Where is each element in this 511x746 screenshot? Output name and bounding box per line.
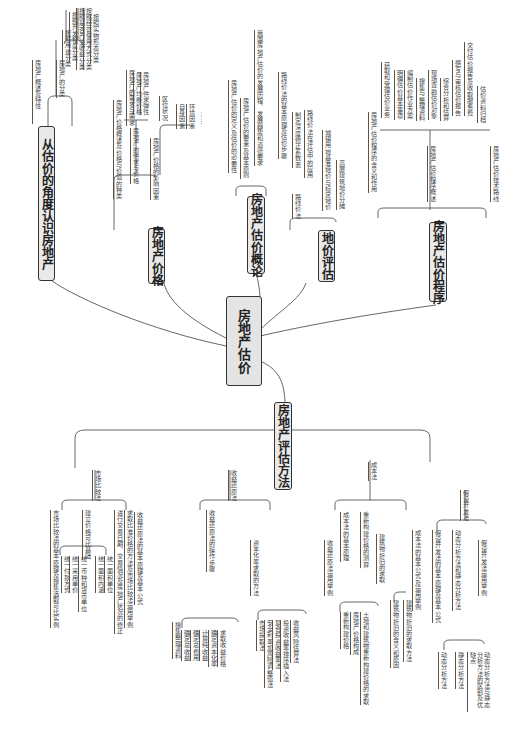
topic-procedure-overview[interactable]: 房地产估价程序概述 bbox=[427, 146, 436, 202]
topic-definition-necessity[interactable]: 房地产估价的定义及估价的必要性 bbox=[228, 80, 237, 173]
cost-rebuild-measure[interactable]: 重新构建价格的测算 bbox=[360, 512, 369, 568]
hyp-leaf-static[interactable]: 静态分析方法 bbox=[455, 652, 464, 689]
leaf-street-principle[interactable]: 路线价法的基本原理及估价步骤 bbox=[278, 72, 287, 159]
leaf-deliver-report[interactable]: 交付估价报告及收取服务费 bbox=[464, 42, 473, 116]
leaf-collect-data[interactable]: 搜集与整理资料 bbox=[416, 78, 425, 121]
method-cost[interactable]: 成本法 bbox=[368, 462, 377, 481]
branch-appraisal-intro[interactable]: 房地产估价概论 bbox=[247, 196, 265, 274]
inc-leaf-risk[interactable]: 收益风险估算法 bbox=[290, 620, 299, 663]
leaf-street-application[interactable]: 路线价法在评估中的应用 bbox=[304, 110, 313, 178]
method-income[interactable]: 收益还原法 bbox=[228, 470, 237, 501]
topic-technical-route[interactable]: 房地产估价技术路线 bbox=[490, 146, 499, 202]
leaf-archive[interactable]: 估价资料归档 bbox=[477, 86, 486, 123]
leaf-acquire-business[interactable]: 获取和受理估价业务 bbox=[381, 62, 390, 118]
mc-leaf-currency[interactable]: 统一币种和货币单位 bbox=[78, 556, 87, 612]
inc-cap-rate-methods[interactable]: 资本化率求取的方法 bbox=[250, 540, 259, 596]
inc-leaf-gross-expense[interactable]: 确定总费用 bbox=[190, 630, 199, 661]
inc-leaf-income-price[interactable]: 求取收益价格 bbox=[217, 630, 226, 667]
topic-elements-principles[interactable]: 房地产估价的要素及基本原则 bbox=[240, 98, 249, 179]
mind-map-canvas: 房地产估价 从估价的角度认识房地产 房地产概述及特性 房地产的分类 按照用途分类… bbox=[0, 0, 511, 746]
hyp-leaf-difference[interactable]: 动态分析方法与静态分析方法的区别及优缺点 bbox=[467, 652, 490, 712]
mc-comparable-basis[interactable]: 建立价格可比基础 bbox=[82, 510, 91, 560]
cost-leaf-depreciation-meaning[interactable]: 建筑物折旧的含义和原因 bbox=[390, 600, 399, 668]
cost-depreciation[interactable]: 建筑物折旧的求取 bbox=[376, 534, 385, 584]
leaf-location[interactable]: 区位状况 bbox=[159, 96, 168, 121]
mc-adjustments[interactable]: 进行交易日期、交易情况及房地产状况的修正 bbox=[114, 510, 123, 634]
hyp-leaf-dynamic[interactable]: 动态分析方法 bbox=[438, 652, 447, 689]
topic-benchmark-land-price[interactable]: 城镇用地基准地价与标定地价 bbox=[322, 130, 331, 211]
leaf-elasticity[interactable]: 房地产供求弹性 bbox=[140, 72, 149, 115]
inc-leaf-ranking[interactable]: 投资收益率排序插入法 bbox=[280, 620, 289, 682]
leaf-analysis-estimate[interactable]: 综合分析和估算 bbox=[440, 78, 449, 121]
inc-principle[interactable]: 收益还原法的基本原理及基本公式 bbox=[134, 512, 143, 605]
cost-formula-example[interactable]: 成本法的基本公式及运用举例 bbox=[412, 530, 421, 611]
hyp-dynamic-static[interactable]: 动态分析方法和静态分析方法 bbox=[452, 530, 461, 611]
branch-label: 房地产估价程序 bbox=[430, 220, 447, 304]
branch-label: 房地产评估方法 bbox=[275, 404, 292, 488]
inc-leaf-cap-rate[interactable]: 确定资本化率 bbox=[208, 630, 217, 667]
cost-leaf-price-composition[interactable]: 房地产价格构成 bbox=[350, 612, 359, 655]
topic-street-value-method[interactable]: 路线价法 bbox=[292, 194, 301, 219]
leaf-self-factors[interactable]: 自身因素 bbox=[176, 104, 185, 129]
inc-steps[interactable]: 收益还原法的操作步骤 bbox=[206, 510, 215, 572]
method-market-comparison[interactable]: 市场比较法 bbox=[92, 470, 101, 501]
mc-compare-price-example[interactable]: 求取比准价格的方法及市场比较法运用举例 bbox=[124, 510, 133, 628]
root-label: 房地产估价 bbox=[235, 309, 254, 374]
branch-appraisal-procedure[interactable]: 房地产估价程序 bbox=[429, 222, 447, 302]
branch-label: 房地产价格 bbox=[148, 226, 165, 286]
mc-leaf-area-unit[interactable]: 统一面积单位 bbox=[104, 556, 113, 593]
inc-example[interactable]: 收益还原法运用举例 bbox=[324, 540, 333, 596]
leaf-by-form[interactable]: 按照实物形态分类 bbox=[90, 14, 99, 64]
leaf-environment[interactable]: 环境因素 bbox=[186, 104, 195, 129]
mc-leaf-unit-price[interactable]: 统一采用单价 bbox=[69, 556, 78, 593]
topic-supply-demand[interactable]: 房地产的供求与价格 bbox=[130, 128, 139, 184]
cost-leaf-rebuild-price[interactable]: 重新构建价格 bbox=[340, 612, 349, 649]
leaf-ellipsis: …… bbox=[200, 112, 207, 125]
topic-price-overview[interactable]: 房地产价格概述及价格与价值的种类 bbox=[113, 100, 122, 199]
branch-recognize-real-estate[interactable]: 从估价的角度认识房地产 bbox=[38, 126, 55, 281]
topic-high-rise-allocation[interactable]: 高层建筑地价分摊 bbox=[336, 160, 345, 210]
hyp-example[interactable]: 假设开发法运用举例 bbox=[478, 540, 487, 596]
cost-leaf-land-building-rebuild[interactable]: 土地和建筑物重新构建价格的求取 bbox=[360, 612, 369, 705]
leaf-depth-table[interactable]: 制定深度修正系数表 bbox=[292, 112, 301, 168]
root-node[interactable]: 房地产估价 bbox=[226, 296, 262, 386]
leaf-work-plan[interactable]: 编制估价作业方案 bbox=[404, 70, 413, 120]
inc-leaf-gross-income[interactable]: 确定总收益 bbox=[181, 630, 190, 661]
leaf-clarify-matters[interactable]: 明确估价基本事项 bbox=[394, 70, 403, 120]
branch-label: 地价评估 bbox=[318, 232, 335, 280]
topic-history-trends[interactable]: 我国房地产估价的发展历程、发展趋势和道德要求 bbox=[254, 30, 263, 166]
leaf-site-inspection[interactable]: 现场查勘估价对象 bbox=[428, 70, 437, 120]
leaf-write-report[interactable]: 撰写与审核估价报告 bbox=[452, 60, 461, 116]
method-hypothetical-development[interactable]: 假设开发法 bbox=[460, 490, 469, 521]
topic-procedure-meaning[interactable]: 房地产估价程序的含义和作用 bbox=[368, 112, 377, 193]
mc-principle[interactable]: 市场比较法的基本原理及搜集选取可比实例 bbox=[50, 510, 59, 628]
branch-label: 从估价的角度认识房地产 bbox=[38, 138, 55, 270]
branch-land-valuation[interactable]: 地价评估 bbox=[318, 230, 335, 282]
mc-leaf-area-meaning[interactable]: 统一面积内涵 bbox=[95, 556, 104, 593]
hyp-principle[interactable]: 假设开发法的基本原理及基本公式 bbox=[432, 530, 441, 623]
cost-leaf-depreciation-method[interactable]: 建筑物折旧的求取方法 bbox=[403, 600, 412, 662]
inc-leaf-net-income[interactable]: 计算纯收益 bbox=[199, 630, 208, 661]
topic-overview-characteristics[interactable]: 房地产概述及特性 bbox=[32, 60, 41, 124]
branch-appraisal-methods[interactable]: 房地产评估方法 bbox=[274, 402, 292, 490]
inc-leaf-collect[interactable]: 搜集整理资料 bbox=[172, 622, 181, 659]
branch-real-estate-price[interactable]: 房地产价格 bbox=[148, 228, 165, 284]
cost-principle[interactable]: 成本法的基本原理 bbox=[340, 512, 349, 562]
branch-label: 房地产估价概论 bbox=[248, 193, 265, 277]
topic-price-factors[interactable]: 房地产价格的影响因素 bbox=[150, 138, 159, 200]
